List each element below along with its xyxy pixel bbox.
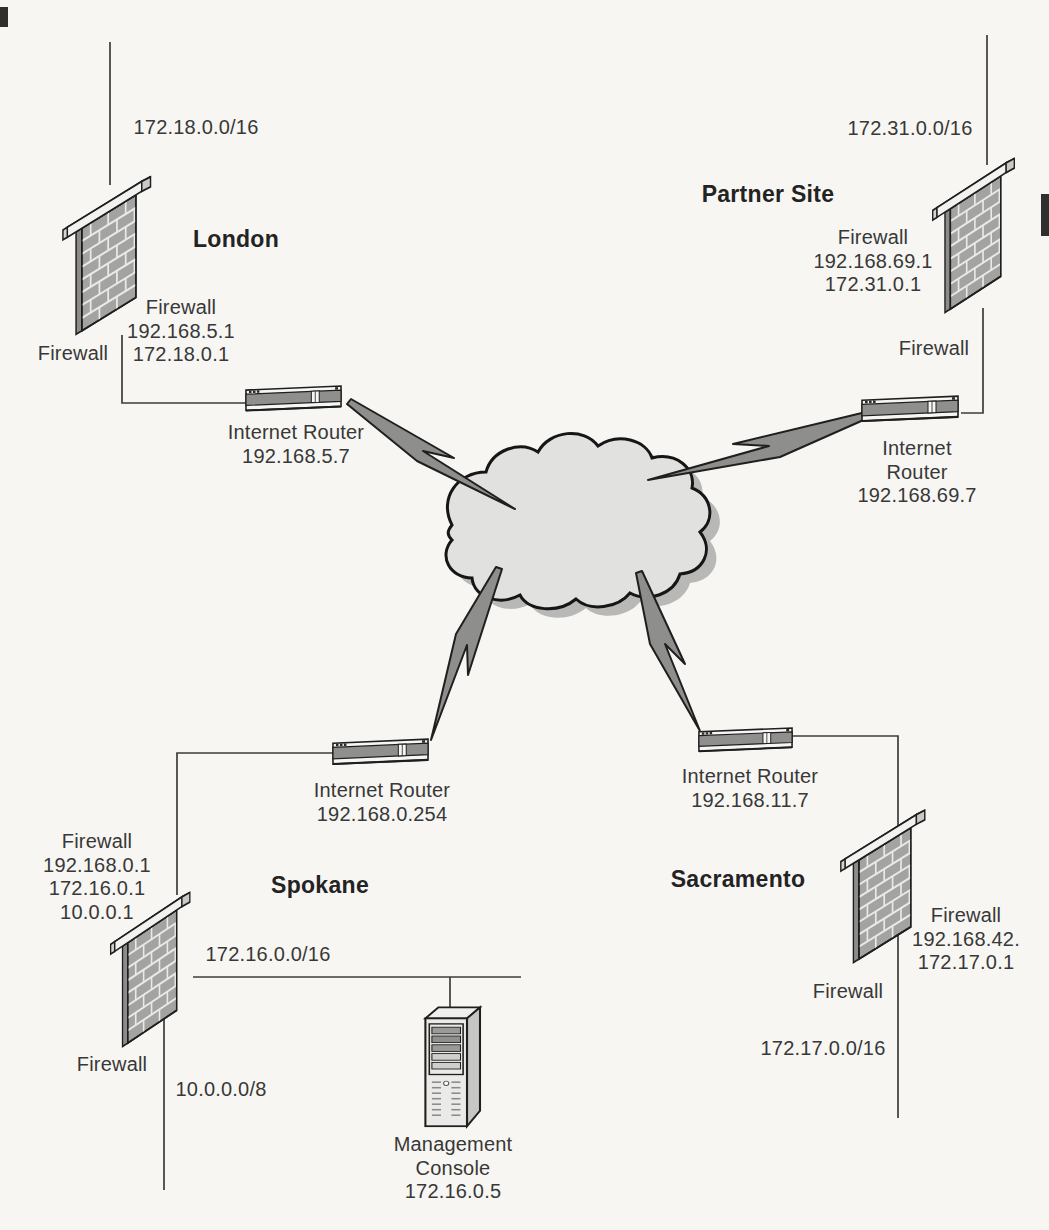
spokane-site-name: Spokane bbox=[271, 874, 369, 898]
lightning-bolt-icon-london bbox=[347, 399, 515, 509]
spokane-router-info: Internet Router 192.168.0.254 bbox=[314, 779, 450, 826]
london-firewall-info: Firewall 192.168.5.1 172.18.0.1 bbox=[127, 296, 235, 367]
london-router-info: Internet Router 192.168.5.7 bbox=[228, 421, 364, 468]
firewall-icon-partner bbox=[933, 158, 1015, 312]
partner-firewall-info: Firewall 192.168.69.1 172.31.0.1 bbox=[813, 226, 932, 297]
router-icon-partner bbox=[862, 396, 958, 421]
spokane-firewall-caption: Firewall bbox=[77, 1053, 148, 1077]
partner-firewall-caption: Firewall bbox=[899, 337, 970, 361]
london-firewall-caption: Firewall bbox=[38, 342, 109, 366]
spokane-firewall-info: Firewall 192.168.0.1 172.16.0.1 10.0.0.1 bbox=[43, 830, 151, 924]
connector-line-partner-fw-router bbox=[961, 308, 983, 413]
router-icon-spokane bbox=[333, 739, 428, 764]
router-icon-london bbox=[246, 386, 341, 410]
sacramento-firewall-caption: Firewall bbox=[813, 980, 884, 1004]
london-network-label: 172.18.0.0/16 bbox=[134, 116, 259, 140]
sacramento-site-name: Sacramento bbox=[671, 868, 806, 892]
lightning-bolt-icon-spokane bbox=[431, 567, 502, 740]
london-site-name: London bbox=[193, 228, 279, 252]
server-icon-management-console bbox=[425, 1007, 480, 1126]
scan-artifact bbox=[0, 7, 8, 27]
spokane-net10-label: 10.0.0.0/8 bbox=[176, 1078, 267, 1102]
spokane-lan-network-label: 172.16.0.0/16 bbox=[206, 943, 331, 967]
partner-site-name: Partner Site bbox=[702, 183, 835, 207]
management-console-label: Management Console 172.16.0.5 bbox=[394, 1133, 513, 1204]
partner-network-label: 172.31.0.0/16 bbox=[848, 117, 973, 141]
sacramento-router-info: Internet Router 192.168.11.7 bbox=[682, 765, 818, 812]
router-icon-sacramento bbox=[699, 728, 792, 751]
partner-router-info: Internet Router 192.168.69.7 bbox=[851, 437, 983, 508]
scan-artifact bbox=[1041, 194, 1049, 236]
diagram-canvas bbox=[0, 0, 1049, 1230]
sacramento-network-label: 172.17.0.0/16 bbox=[761, 1037, 886, 1061]
lightning-bolt-icon-partner bbox=[648, 412, 868, 480]
network-diagram: 172.18.0.0/16 London Firewall 192.168.5.… bbox=[0, 0, 1049, 1230]
sacramento-firewall-info: Firewall 192.168.42. 172.17.0.1 bbox=[912, 904, 1020, 975]
